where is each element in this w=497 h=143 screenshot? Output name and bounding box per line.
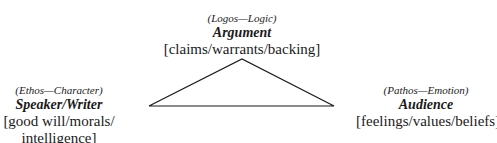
node-title-argument: Argument: [142, 25, 342, 41]
appeal-pathos: (Pathos—Emotion): [356, 84, 496, 97]
node-argument: (Logos—Logic) Argument [claims/warrants/…: [142, 12, 342, 58]
appeal-logos: (Logos—Logic): [142, 12, 342, 25]
node-audience: (Pathos—Emotion) Audience [feelings/valu…: [356, 84, 496, 130]
node-speaker-writer: (Ethos—Character) Speaker/Writer [good w…: [0, 84, 118, 143]
node-detail-speaker-line2: intelligence]: [0, 130, 118, 143]
node-title-speaker-writer: Speaker/Writer: [0, 97, 118, 113]
node-detail-speaker-line1: [good will/morals/: [0, 113, 118, 130]
node-title-audience: Audience: [356, 97, 496, 113]
appeal-ethos: (Ethos—Character): [0, 84, 118, 97]
triangle-shape: [149, 59, 334, 106]
node-detail-audience: [feelings/values/beliefs]: [356, 113, 496, 130]
node-detail-argument: [claims/warrants/backing]: [142, 41, 342, 58]
